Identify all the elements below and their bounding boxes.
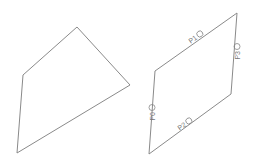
p3-label-text: P3 — [234, 51, 241, 60]
p1-label-text: P1 — [187, 34, 198, 45]
p2-marker-icon — [185, 117, 193, 125]
p2-label-text: P2 — [176, 121, 187, 132]
p0-label-text: P0 — [149, 112, 156, 121]
diagram-canvas: P0 P1 P2 P3 — [0, 0, 259, 167]
quadrilateral-shape — [17, 27, 130, 153]
